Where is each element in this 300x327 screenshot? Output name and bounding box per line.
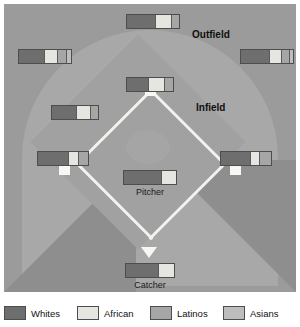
position-marker-shortstop — [51, 105, 99, 120]
pitchers-mound — [126, 130, 170, 164]
zone-label-outfield: Outfield — [192, 29, 230, 40]
bar-segment-first-base-latinos — [259, 152, 271, 165]
bar-segment-left-field-whites — [19, 50, 44, 63]
position-marker-right-field — [240, 49, 294, 64]
home-plate-marker — [141, 247, 157, 258]
bar-segment-first-base-african — [250, 152, 260, 165]
stacked-bar-first-base — [220, 151, 272, 166]
bar-segment-right-field-african — [269, 50, 281, 63]
bar-segment-right-field-whites — [241, 50, 269, 63]
bar-segment-center-field-deep-whites — [127, 15, 155, 28]
stacked-bar-left-field — [18, 49, 72, 64]
stacked-bar-center-field-deep — [126, 14, 180, 29]
legend: WhitesAfricanLatinosAsians — [4, 303, 296, 323]
stacked-bar-shortstop — [51, 105, 99, 120]
bar-segment-pitcher-whites — [124, 171, 161, 184]
bar-segment-shortstop-whites — [52, 106, 76, 119]
bar-segment-catcher-african — [158, 264, 174, 277]
stacked-bar-pitcher — [123, 170, 177, 185]
bar-segment-shortstop-latinos — [90, 106, 98, 119]
baseball-field-diagram: Outfield Infield PitcherCatcher — [4, 4, 296, 292]
bar-segment-third-base-latinos — [78, 152, 88, 165]
bar-segment-third-base-african — [68, 152, 79, 165]
legend-swatch-whites — [4, 306, 26, 320]
legend-swatch-african — [77, 306, 99, 320]
legend-swatch-asians — [223, 306, 245, 320]
bar-segment-center-field-whites — [127, 78, 148, 91]
position-marker-center-field — [126, 77, 174, 92]
bar-segment-third-base-whites — [38, 152, 68, 165]
bar-segment-shortstop-african — [76, 106, 89, 119]
bar-segment-catcher-whites — [126, 264, 158, 277]
position-marker-center-field-deep — [126, 14, 180, 29]
legend-item-latinos: Latinos — [150, 306, 223, 320]
bar-segment-left-field-african — [44, 50, 57, 63]
legend-label-african: African — [104, 308, 134, 319]
legend-label-whites: Whites — [31, 308, 60, 319]
legend-item-african: African — [77, 306, 150, 320]
bar-segment-left-field-asians — [66, 50, 71, 63]
stacked-bar-third-base — [37, 151, 89, 166]
bar-segment-first-base-whites — [221, 152, 250, 165]
legend-item-whites: Whites — [4, 306, 77, 320]
bar-segment-center-field-deep-latinos — [171, 15, 180, 28]
bar-segment-left-field-latinos — [57, 50, 66, 63]
legend-swatch-latinos — [150, 306, 172, 320]
legend-item-asians: Asians — [223, 306, 296, 320]
bar-segment-right-field-asians — [289, 50, 293, 63]
stacked-bar-catcher — [125, 263, 175, 278]
position-marker-third-base — [37, 151, 89, 166]
bar-segment-right-field-latinos — [281, 50, 288, 63]
bar-segment-pitcher-african — [161, 171, 176, 184]
legend-label-asians: Asians — [250, 308, 279, 319]
position-marker-left-field — [18, 49, 72, 64]
position-marker-pitcher: Pitcher — [123, 170, 177, 197]
position-label-catcher: Catcher — [125, 280, 175, 290]
bar-segment-center-field-african — [148, 78, 164, 91]
zone-label-infield: Infield — [196, 102, 225, 113]
bar-segment-center-field-deep-african — [155, 15, 171, 28]
stacked-bar-center-field — [126, 77, 174, 92]
bar-segment-center-field-latinos — [164, 78, 173, 91]
position-marker-first-base — [220, 151, 272, 166]
position-marker-catcher: Catcher — [125, 263, 175, 290]
position-label-pitcher: Pitcher — [123, 187, 177, 197]
stacked-bar-right-field — [240, 49, 294, 64]
legend-label-latinos: Latinos — [177, 308, 208, 319]
